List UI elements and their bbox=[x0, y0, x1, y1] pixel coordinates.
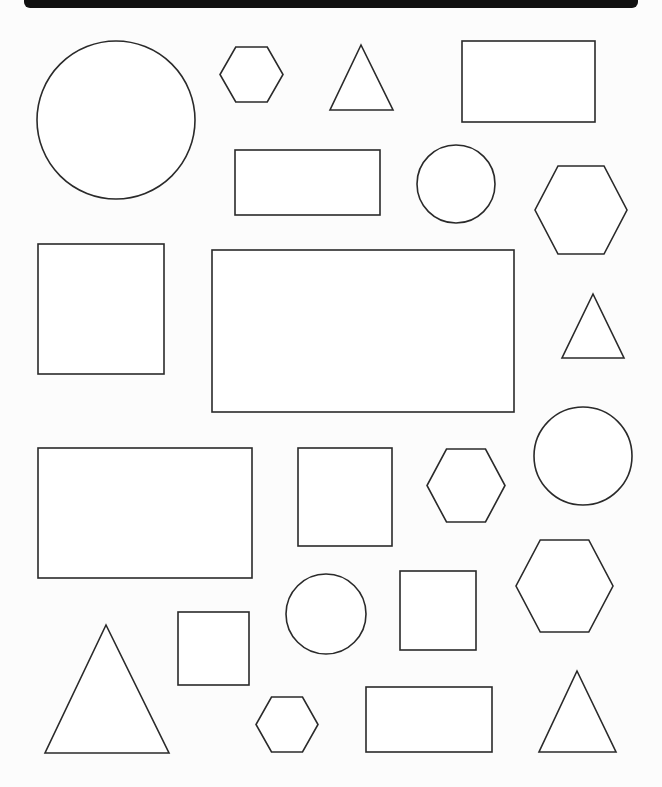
square-shape-2 bbox=[298, 448, 392, 546]
circle-shape-4 bbox=[286, 574, 366, 654]
shapes-canvas bbox=[0, 0, 662, 787]
circle-shape-2 bbox=[417, 145, 495, 223]
hexagon-shape-3 bbox=[427, 449, 505, 522]
hexagon-shape-4 bbox=[516, 540, 613, 632]
rect-shape-3 bbox=[212, 250, 514, 412]
rect-shape-2 bbox=[235, 150, 380, 215]
circle-shape-3 bbox=[534, 407, 632, 505]
triangle-shape-2 bbox=[562, 294, 624, 358]
square-shape-1 bbox=[38, 244, 164, 374]
triangle-shape-4 bbox=[539, 671, 616, 752]
rect-shape-5 bbox=[366, 687, 492, 752]
square-shape-3 bbox=[400, 571, 476, 650]
worksheet-page bbox=[0, 0, 662, 787]
hexagon-shape-1 bbox=[220, 47, 283, 102]
triangle-shape-3 bbox=[45, 625, 169, 753]
circle-shape-1 bbox=[37, 41, 195, 199]
square-shape-4 bbox=[178, 612, 249, 685]
triangle-shape-1 bbox=[330, 45, 393, 110]
rect-shape-1 bbox=[462, 41, 595, 122]
rect-shape-4 bbox=[38, 448, 252, 578]
hexagon-shape-2 bbox=[535, 166, 627, 254]
hexagon-shape-5 bbox=[256, 697, 318, 752]
